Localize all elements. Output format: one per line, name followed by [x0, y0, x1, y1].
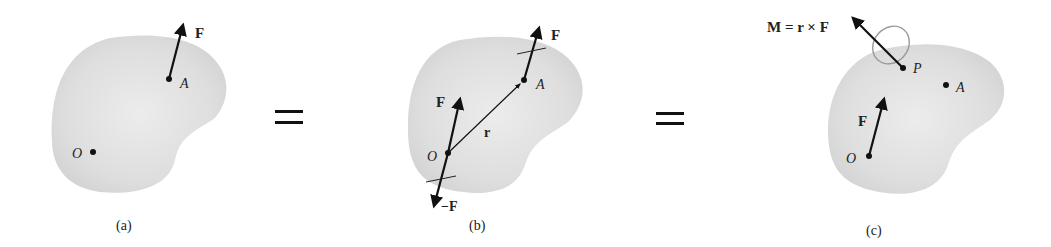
point-a-dot [166, 76, 172, 82]
moment-label: M = r × F [767, 19, 829, 35]
rigid-body [408, 37, 583, 193]
equals-sign-2 [656, 112, 684, 125]
force-label: F [195, 25, 204, 41]
caption-c: (c) [866, 223, 882, 239]
origin-label: O [846, 151, 856, 166]
point-a-dot [521, 77, 527, 83]
panel-b: F A F r O −F (b) [408, 27, 583, 234]
point-o-dot [445, 150, 451, 156]
point-p-dot [900, 65, 906, 71]
force-label-a: F [551, 27, 560, 43]
rigid-body [52, 35, 227, 192]
negative-force-label: −F [441, 199, 458, 214]
origin-label: O [72, 146, 82, 161]
point-o-dot [90, 149, 96, 155]
origin-label: O [427, 149, 437, 164]
point-p-label: P [912, 61, 922, 76]
point-a-dot [943, 82, 949, 88]
point-a-label: A [955, 80, 965, 95]
point-a-label: A [179, 76, 189, 91]
caption-a: (a) [116, 218, 132, 234]
panel-c: M = r × F P A F O (c) [767, 18, 1004, 239]
point-a-label: A [535, 77, 545, 92]
force-couple-diagram: F A O (a) F A F r O −F (b) [0, 0, 1051, 247]
equals-sign-1 [275, 110, 303, 124]
force-label: F [858, 113, 867, 129]
point-o-dot [866, 153, 872, 159]
position-vector-label: r [484, 125, 490, 140]
panel-a: F A O (a) [52, 25, 227, 234]
caption-b: (b) [469, 218, 486, 234]
force-label-o: F [436, 94, 445, 110]
